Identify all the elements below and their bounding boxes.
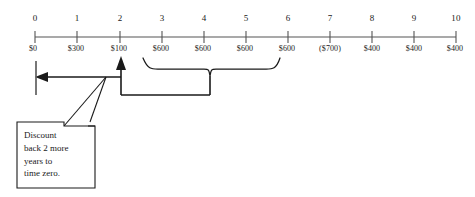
callout-annotation: Discount back 2 more years to time zero. [17, 122, 95, 188]
period-label-0: 0 [33, 13, 38, 23]
period-label-7: 7 [328, 13, 333, 23]
amount-label-3: $600 [153, 44, 169, 53]
callout-leader-right [90, 77, 106, 122]
amount-label-5: $600 [237, 44, 253, 53]
callout-line-4: time zero. [24, 167, 68, 180]
amount-label-2: $100 [111, 44, 127, 53]
period-label-10: 10 [451, 13, 460, 23]
amount-label-9: $400 [406, 44, 422, 53]
period-label-8: 8 [370, 13, 375, 23]
discount-arrow-head [35, 72, 48, 82]
up-arrow-head [116, 56, 126, 70]
amount-label-7: ($700) [319, 44, 341, 53]
callout-line-2: back 2 more [24, 142, 68, 155]
callout-leader-left [64, 77, 106, 126]
timeline-diagram: 0 1 2 3 4 5 6 7 8 9 10 $0 $300 $100 $600… [0, 0, 475, 197]
period-label-2: 2 [118, 13, 123, 23]
amount-label-0: $0 [29, 44, 37, 53]
period-label-5: 5 [244, 13, 249, 23]
period-label-4: 4 [202, 13, 207, 23]
amount-label-6: $600 [279, 44, 295, 53]
amount-label-4: $600 [195, 44, 211, 53]
period-label-1: 1 [75, 13, 80, 23]
period-label-9: 9 [412, 13, 417, 23]
amount-label-10: $400 [447, 44, 463, 53]
amount-label-1: $300 [68, 44, 84, 53]
callout-line-3: years to [24, 155, 68, 168]
amount-label-8: $400 [364, 44, 380, 53]
annuity-brace [143, 58, 280, 76]
callout-line-1: Discount [24, 129, 68, 142]
period-label-6: 6 [286, 13, 291, 23]
callout-text: Discount back 2 more years to time zero. [24, 129, 68, 180]
period-label-3: 3 [160, 13, 165, 23]
